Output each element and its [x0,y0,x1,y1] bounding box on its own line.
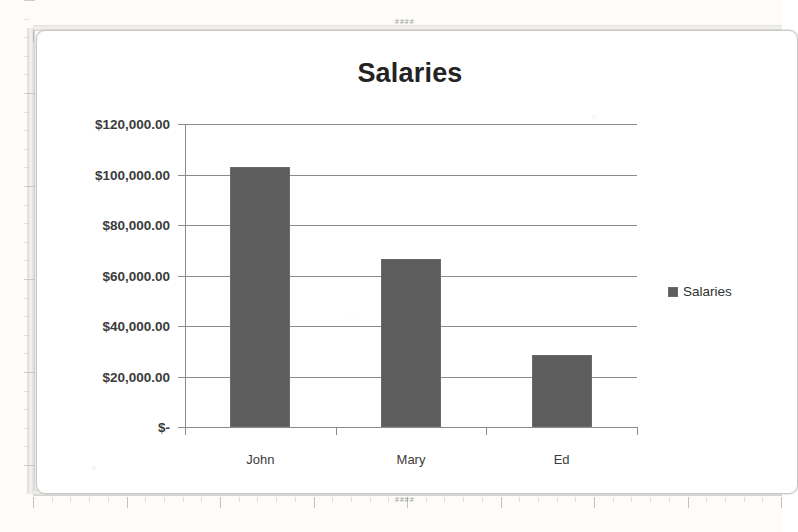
bar-ed[interactable] [532,355,592,427]
y-axis-tick-label: $60,000.00 [30,268,170,283]
y-axis-tick-label: $100,000.00 [30,167,170,182]
x-axis-label-ed: Ed [502,452,622,467]
chart-title: Salaries [150,58,670,89]
top-ruler-marks: #### [395,18,415,25]
y-axis-tick-label: $20,000.00 [30,369,170,384]
x-axis-tick [336,427,337,435]
legend-swatch-icon [668,287,678,297]
y-axis-tick-label: $120,000.00 [30,117,170,132]
x-axis-tick [185,427,186,435]
legend-label: Salaries [683,284,732,299]
x-axis-label-mary: Mary [351,452,471,467]
y-axis-tick [178,124,186,125]
bottom-ruler-marks: #### [395,496,415,503]
chart-legend: Salaries [668,284,732,299]
y-axis-tick-label: $- [30,420,170,435]
y-axis-tick-label: $80,000.00 [30,218,170,233]
x-axis-label-john: John [200,452,320,467]
bar-mary[interactable] [381,259,441,427]
x-axis-tick [637,427,638,435]
plot-area [185,124,637,427]
bar-john[interactable] [230,167,290,427]
y-axis-tick [178,377,186,378]
y-axis-labels: $120,000.00$100,000.00$80,000.00$60,000.… [25,0,170,532]
y-axis-tick-label: $40,000.00 [30,319,170,334]
y-axis-tick [178,175,186,176]
gridline [185,427,637,428]
gridline [185,124,637,125]
y-axis-tick [178,225,186,226]
y-axis-tick [178,276,186,277]
y-axis-tick [178,326,186,327]
x-axis-tick [486,427,487,435]
